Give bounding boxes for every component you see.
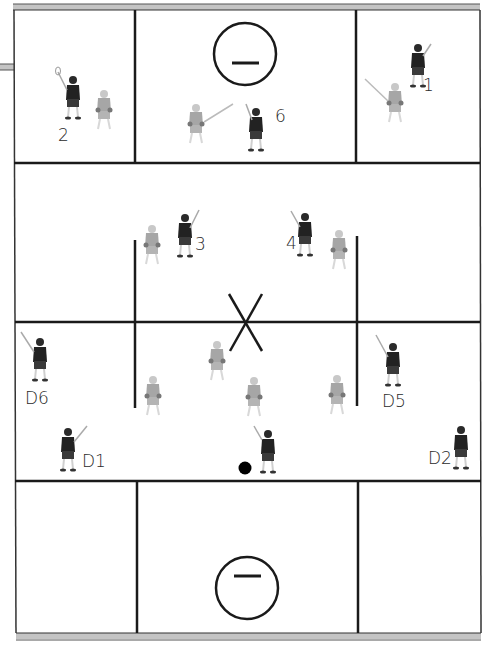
player-dark-6 xyxy=(246,104,264,152)
label-player-d2: D2 xyxy=(428,450,452,467)
left-stub xyxy=(0,64,14,70)
player-light-4 xyxy=(331,230,348,269)
player-light-mid-center-top xyxy=(209,341,226,380)
player-light-mid-left xyxy=(145,376,162,415)
player-dark-d6 xyxy=(21,332,48,382)
label-player-6: 6 xyxy=(275,108,286,125)
player-light-2 xyxy=(96,90,113,129)
label-player-1: 1 xyxy=(423,77,434,94)
label-player-3: 3 xyxy=(195,236,206,253)
label-player-4: 4 xyxy=(286,235,297,252)
player-light-6 xyxy=(188,104,234,143)
label-player-d5: D5 xyxy=(382,393,406,410)
player-dark-2 xyxy=(56,67,82,120)
player-light-mid-right xyxy=(329,375,346,414)
player-dark-d2 xyxy=(453,426,469,470)
player-dark-d5 xyxy=(376,335,401,387)
right-sideline xyxy=(480,10,481,633)
label-player-d6: D6 xyxy=(25,390,49,407)
player-light-mid-center xyxy=(246,377,263,416)
ball-icon xyxy=(239,462,252,475)
bottom-boundary xyxy=(16,633,481,640)
label-player-2: 2 xyxy=(58,127,69,144)
bottom-goal-crease-icon xyxy=(216,557,278,619)
lacrosse-field-diagram xyxy=(0,0,487,652)
label-player-d1: D1 xyxy=(82,453,106,470)
player-light-3 xyxy=(144,225,161,264)
player-dark-ballcarrier xyxy=(254,426,276,474)
player-light-1 xyxy=(365,79,404,122)
top-goal-crease-icon xyxy=(214,23,276,85)
top-boundary xyxy=(13,4,480,10)
